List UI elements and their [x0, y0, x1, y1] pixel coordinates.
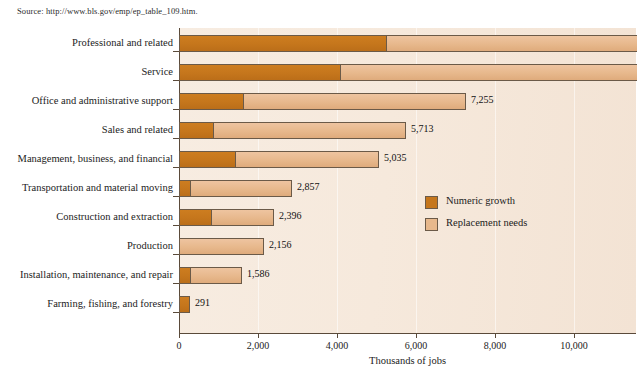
bar-segment-replacement — [190, 180, 292, 197]
bar-value-label: 7,255 — [471, 94, 494, 105]
bar-value-label: 2,857 — [297, 181, 320, 192]
bar-segment-replacement — [386, 35, 637, 52]
category-label-production: Production — [127, 240, 173, 252]
category-label-transportation: Transportation and material moving — [22, 182, 173, 194]
category-label-office: Office and administrative support — [32, 95, 173, 107]
category-label-service: Service — [142, 66, 174, 78]
x-axis-tick-label: 0 — [177, 340, 182, 351]
x-axis-tick — [337, 333, 338, 338]
bar-segment-growth — [179, 93, 244, 110]
x-axis-tick-label: 8,000 — [484, 340, 507, 351]
bar-segment-growth — [179, 64, 341, 81]
x-axis-tick — [495, 333, 496, 338]
bar-segment-replacement — [243, 93, 466, 110]
category-label-sales: Sales and related — [102, 124, 173, 136]
bar-value-label: 1,586 — [247, 268, 270, 279]
bar-segment-replacement — [179, 238, 264, 255]
x-axis-line — [179, 333, 636, 334]
category-label-installation: Installation, maintenance, and repair — [20, 269, 173, 281]
x-axis-tick-label: 6,000 — [405, 340, 428, 351]
bar-segment-growth — [179, 151, 236, 168]
bar-segment-growth — [179, 296, 190, 313]
x-axis-tick-label: 10,000 — [560, 340, 588, 351]
bar-segment-replacement — [190, 267, 242, 284]
bar-segment-growth — [179, 122, 214, 139]
x-axis-tick-label: 2,000 — [247, 340, 270, 351]
legend-swatch-replacement — [425, 218, 438, 231]
x-axis-tick — [416, 333, 417, 338]
category-label-professional: Professional and related — [72, 37, 173, 49]
category-label-construction: Construction and extraction — [56, 211, 173, 223]
category-label-farming: Farming, fishing, and forestry — [47, 298, 173, 310]
x-axis-tick — [258, 333, 259, 338]
bar-segment-replacement — [235, 151, 379, 168]
bar-value-label: 2,156 — [269, 239, 292, 250]
bar-segment-growth — [179, 209, 212, 226]
category-label-management: Management, business, and financial — [18, 153, 173, 165]
x-axis-tick — [179, 333, 180, 338]
bar-segment-growth — [179, 35, 387, 52]
bar-value-label: 5,035 — [384, 152, 407, 163]
bar-segment-replacement — [340, 64, 637, 81]
legend-swatch-growth — [425, 196, 438, 209]
legend-label-replacement: Replacement needs — [446, 217, 527, 228]
bar-segment-replacement — [211, 209, 274, 226]
x-axis-tick — [574, 333, 575, 338]
legend-label-growth: Numeric growth — [446, 195, 515, 206]
x-axis-title: Thousands of jobs — [179, 355, 636, 366]
x-axis-tick-label: 4,000 — [326, 340, 349, 351]
bar-value-label: 291 — [195, 297, 210, 308]
bar-value-label: 2,396 — [279, 210, 302, 221]
chart-figure: Source: http://www.bls.gov/emp/ep_table_… — [0, 0, 637, 379]
bar-segment-replacement — [213, 122, 406, 139]
bar-value-label: 5,713 — [411, 123, 434, 134]
source-credit: Source: http://www.bls.gov/emp/ep_table_… — [17, 6, 198, 16]
